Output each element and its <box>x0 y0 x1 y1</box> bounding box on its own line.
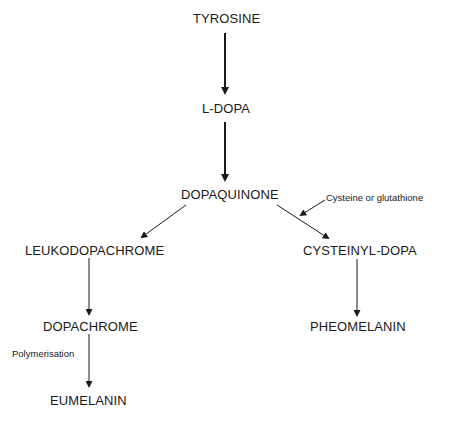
node-dopachrome: DOPACHROME <box>43 319 138 334</box>
arrow-dopaquinone-to-cysteinyldopa <box>277 205 328 238</box>
annotation-cysteine-or-glutathione: Cysteine or glutathione <box>326 192 423 203</box>
node-leukodopachrome: LEUKODOPACHROME <box>25 243 164 258</box>
melanin-pathway-diagram: TYROSINE L-DOPA DOPAQUINONE LEUKODOPACHR… <box>0 0 454 421</box>
node-pheomelanin: PHEOMELANIN <box>310 319 406 334</box>
node-cysteinyl-dopa: CYSTEINYL-DOPA <box>303 243 417 258</box>
arrow-dopaquinone-to-leukodopachrome <box>142 205 186 237</box>
annotation-polymerisation: Polymerisation <box>12 348 74 359</box>
arrow-cysteine-annotation <box>301 200 325 215</box>
node-dopaquinone: DOPAQUINONE <box>181 187 279 202</box>
node-tyrosine: TYROSINE <box>193 11 260 26</box>
node-eumelanin: EUMELANIN <box>50 393 127 408</box>
node-l-dopa: L-DOPA <box>202 101 250 116</box>
